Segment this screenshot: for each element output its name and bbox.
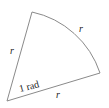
left-radius-label: r: [10, 45, 14, 56]
sector-figure: r r r 1 rad: [0, 0, 109, 108]
arc-length-label: r: [79, 23, 83, 34]
bottom-radius-label: r: [56, 89, 60, 100]
radian-sector-diagram: r r r 1 rad: [0, 0, 109, 108]
arc: [32, 12, 100, 73]
